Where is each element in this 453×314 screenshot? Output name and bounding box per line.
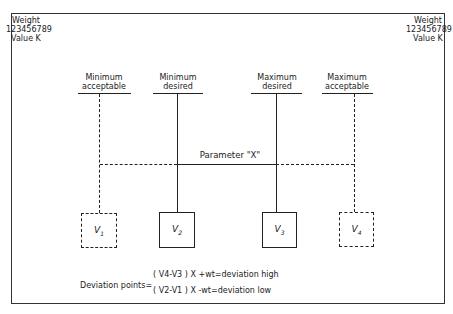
header-minimum-acceptable: Minimum acceptable [74,73,134,91]
header-line2: desired [247,82,307,91]
header-maximum-desired: Maximum desired [247,73,307,91]
right-weight-title: Weight [406,16,450,25]
parameter-line-center [177,164,276,165]
header-minimum-desired: Minimum desired [148,73,208,91]
value-box-v3: V3 [262,212,297,248]
connector-v3 [276,94,277,212]
value-box-v1: V1 [81,213,117,248]
connector-v2 [177,94,178,212]
header-line2: desired [148,82,208,91]
connector-v4 [354,94,355,212]
value-v1-label: V1 [94,225,104,237]
value-box-v2: V2 [159,212,195,248]
right-weight-scale: 123456789 [406,25,450,34]
left-value-k: Value K [6,34,46,43]
value-v2-label: V2 [172,224,182,236]
left-weight-title: Weight [6,16,46,25]
header-rule-v4 [322,93,373,94]
right-weight-label: Weight 123456789 Value K [406,16,450,43]
value-v4-label: V4 [352,224,362,236]
header-rule-v1 [78,93,131,94]
value-v3-label: V3 [275,224,285,236]
header-line1: Maximum [317,73,377,82]
header-line1: Maximum [247,73,307,82]
left-weight-scale: 123456789 [6,25,46,34]
header-rule-v2 [153,93,203,94]
left-weight-label: Weight 123456789 Value K [6,16,46,43]
header-line1: Minimum [148,73,208,82]
header-line1: Minimum [74,73,134,82]
value-box-v4: V4 [339,212,374,247]
header-line2: acceptable [317,82,377,91]
formula-prefix: Deviation points= [80,281,152,290]
parameter-line-left [100,164,177,165]
header-maximum-acceptable: Maximum acceptable [317,73,377,91]
formula-deviation-high: ( V4-V3 ) X +wt=deviation high [153,270,279,279]
right-value-k: Value K [406,34,450,43]
parameter-label: Parameter "X" [190,151,270,160]
connector-v1 [99,94,100,213]
header-line2: acceptable [74,82,134,91]
parameter-line-right [276,164,354,165]
formula-deviation-low: ( V2-V1 ) X -wt=deviation low [153,286,271,295]
